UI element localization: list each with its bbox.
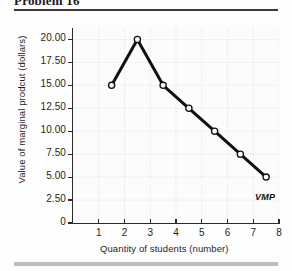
x-axis-title: Quantity of students (number) <box>100 243 229 254</box>
y-axis-tick-labels: 02.505.007.5010.0012.5015.0017.5020.00 <box>24 0 66 271</box>
y-axis-tick-label: 20.00 <box>26 32 66 43</box>
y-axis-tick-label: 0 <box>26 216 66 227</box>
y-axis-tick-label: 12.50 <box>26 101 66 112</box>
x-axis-tick <box>201 219 202 223</box>
x-axis-tick <box>124 219 125 223</box>
x-axis-tick <box>278 219 279 223</box>
y-axis-tick-label: 10.00 <box>26 124 66 135</box>
y-axis-tick <box>68 222 72 223</box>
x-axis-tick-label: 7 <box>244 227 262 238</box>
y-axis-tick-label: 17.50 <box>26 55 66 66</box>
footer-divider <box>14 262 278 266</box>
y-axis-tick <box>68 108 72 109</box>
y-axis-tick <box>68 154 72 155</box>
x-axis-tick <box>227 219 228 223</box>
x-axis-tick-label: 8 <box>270 227 288 238</box>
y-axis-tick <box>68 177 72 178</box>
x-axis-tick <box>253 219 254 223</box>
y-axis-tick-label: 5.00 <box>26 170 66 181</box>
plot-area <box>73 28 279 223</box>
y-axis-tick-label: 15.00 <box>26 78 66 89</box>
y-axis-tick-label: 7.50 <box>26 147 66 158</box>
x-axis-tick-label: 1 <box>90 227 108 238</box>
y-axis-tick-label: 2.50 <box>26 193 66 204</box>
x-axis-tick-label: 4 <box>167 227 185 238</box>
x-axis-tick <box>98 219 99 223</box>
x-axis-tick-label: 5 <box>193 227 211 238</box>
figure-container: Problem 16 02.505.007.5010.0012.5015.001… <box>0 0 292 271</box>
x-axis-tick-label: 3 <box>141 227 159 238</box>
series-vmp <box>73 28 279 223</box>
x-axis-tick <box>150 219 151 223</box>
y-axis-tick <box>68 199 72 200</box>
y-axis-tick <box>68 131 72 132</box>
y-axis-tick <box>68 39 72 40</box>
series-label-vmp: VMP <box>255 192 275 202</box>
x-axis-tick-label: 2 <box>116 227 134 238</box>
x-axis-line <box>72 223 280 224</box>
x-axis-tick <box>175 219 176 223</box>
y-axis-title: Value of marginal prodcut (dollars) <box>16 27 27 193</box>
y-axis-tick <box>68 62 72 63</box>
x-axis-tick-label: 6 <box>219 227 237 238</box>
y-axis-tick <box>68 85 72 86</box>
